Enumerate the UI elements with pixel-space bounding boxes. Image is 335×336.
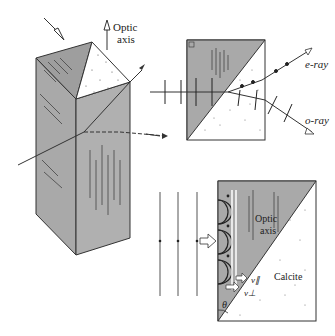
theta-label: θ <box>222 300 227 310</box>
prism-3d <box>18 18 168 255</box>
v-parallel-label: v∥ <box>251 276 260 285</box>
optic-axis-label-1: Optic <box>113 22 137 33</box>
optic-axis-label-1b: axis <box>117 34 135 45</box>
diagram-canvas <box>0 0 335 336</box>
optic-axis-label-2: Optic <box>255 214 277 224</box>
v-perp-label: v⊥ <box>244 289 256 298</box>
optic-axis-label-2b: axis <box>260 226 276 236</box>
huygens-wavelets <box>159 181 316 321</box>
o-ray-label: o-ray <box>305 115 329 126</box>
glan-prism-section <box>146 40 314 140</box>
calcite-label: Calcite <box>274 272 302 282</box>
e-ray-label: e-ray <box>305 59 328 70</box>
